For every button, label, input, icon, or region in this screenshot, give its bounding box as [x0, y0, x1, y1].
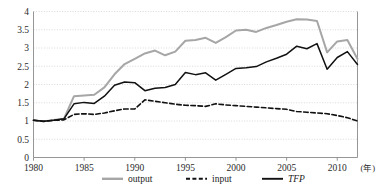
y-axis-tick-label: 0.5: [17, 135, 29, 145]
y-axis-tick-label: 1.5: [17, 98, 29, 108]
y-axis-tick-label: 1: [24, 116, 29, 126]
line-chart: 00.511.522.533.54 1980198519901995200020…: [0, 0, 381, 196]
data-series-group: [34, 19, 358, 121]
x-axis-tick-label: 2000: [227, 163, 246, 173]
series-line-tfp: [34, 44, 358, 122]
y-axis-tick-label: 3.5: [17, 25, 29, 35]
legend-label-input: input: [212, 174, 232, 184]
y-axis-tick-label: 2.5: [17, 62, 29, 72]
y-axis-tick-label: 3: [24, 43, 29, 53]
x-axis-tick-label: 1980: [24, 163, 43, 173]
y-axis-tick-labels: 00.511.522.533.54: [17, 7, 29, 163]
legend-label-tfp: TFP: [288, 174, 305, 184]
y-axis-tick-label: 4: [24, 7, 29, 17]
y-axis-tick-label: 0: [24, 153, 29, 163]
chart-container: 00.511.522.533.54 1980198519901995200020…: [0, 0, 381, 196]
x-axis-tick-label: 2010: [328, 163, 347, 173]
chart-legend: outputinputTFP: [102, 174, 305, 184]
x-axis-tick-label: 2005: [277, 163, 296, 173]
x-axis-unit-label: (年): [361, 163, 376, 173]
x-axis-tick-label: 1985: [75, 163, 94, 173]
x-axis-tick-label: 1990: [125, 163, 144, 173]
x-axis-tick-label: 1995: [176, 163, 195, 173]
y-axis-tick-label: 2: [24, 80, 29, 90]
x-axis-tick-labels: 1980198519901995200020052010: [24, 158, 347, 173]
legend-label-output: output: [128, 174, 153, 184]
